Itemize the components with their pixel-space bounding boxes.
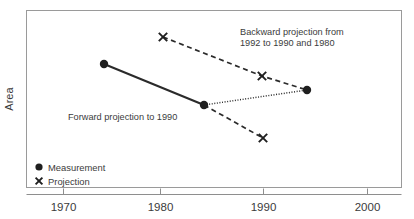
annotation-backward-line1: Backward projection from <box>240 27 344 37</box>
legend-measurement-label: Measurement <box>48 162 106 173</box>
chart-canvas: 1970 1980 1990 2000 Area <box>0 0 414 219</box>
measurement-point-1994 <box>303 86 311 94</box>
annotation-backward-line2: 1992 to 1990 and 1980 <box>240 38 335 48</box>
projection-point-1990-upper <box>258 72 266 80</box>
measurement-solid-line <box>104 64 204 105</box>
x-tick-label-2000: 2000 <box>355 201 381 213</box>
x-tick-label-1970: 1970 <box>51 201 77 213</box>
chart-legend: Measurement Projection <box>35 162 105 187</box>
x-tick-label-1980: 1980 <box>148 201 174 213</box>
legend-projection-label: Projection <box>48 176 90 187</box>
measurement-point-1974 <box>100 60 108 68</box>
legend-projection-icon <box>36 178 43 185</box>
measurement-dotted-connector <box>204 90 307 105</box>
projection-point-1990-lower <box>259 134 267 142</box>
forward-projection-line <box>204 105 263 138</box>
legend-measurement-icon <box>35 163 42 170</box>
x-tick-label-1990: 1990 <box>251 201 277 213</box>
chart-figure: 1970 1980 1990 2000 Area <box>0 0 414 219</box>
annotation-forward-line1: Forward projection to 1990 <box>68 112 177 122</box>
measurement-point-1984 <box>200 101 208 109</box>
y-axis-label: Area <box>3 87 15 111</box>
projection-point-1980 <box>159 33 167 41</box>
